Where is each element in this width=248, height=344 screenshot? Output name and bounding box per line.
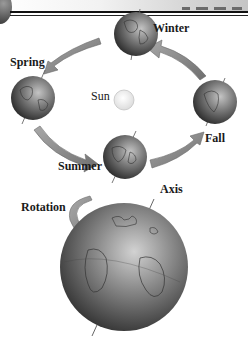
seasons-diagram [0, 0, 248, 344]
globe-fall [193, 78, 237, 126]
globe-winter [114, 9, 158, 60]
label-axis: Axis [160, 183, 183, 195]
arrow-winter-to-spring [44, 38, 101, 74]
label-sun: Sun [91, 90, 110, 102]
globe-spring [11, 70, 55, 124]
label-winter: Winter [153, 22, 189, 34]
arrow-summer-to-fall [150, 132, 204, 168]
label-summer: Summer [58, 160, 102, 172]
sun-icon [114, 90, 134, 110]
label-rotation: Rotation [21, 201, 66, 213]
label-spring: Spring [10, 56, 45, 68]
arrow-fall-to-winter [147, 40, 206, 80]
globe-rotation [60, 199, 188, 336]
globe-summer [103, 131, 147, 183]
label-fall: Fall [205, 132, 225, 144]
